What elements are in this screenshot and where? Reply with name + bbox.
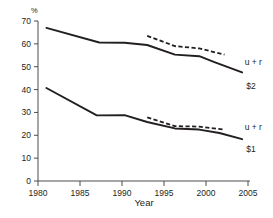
y-tick-label: 50 (22, 62, 32, 72)
series-line-u_plus_r_upper (147, 36, 224, 55)
y-tick-label: 60 (22, 39, 32, 49)
series-annotation-layer: u + r$2u + r$1 (245, 57, 262, 154)
line-chart-plot: % 010203040506070 1980198519901995200020… (0, 0, 273, 218)
x-tick-label: 1985 (71, 188, 90, 198)
y-tick-label: 70 (22, 16, 32, 26)
x-tick-label: 1995 (155, 188, 174, 198)
x-tick-label: 2000 (197, 188, 216, 198)
y-axis-tick-labels: 010203040506070 (22, 16, 32, 186)
series-label-dollar1: $1 (246, 144, 256, 154)
y-tick-label: 40 (22, 85, 32, 95)
y-tick-label: 0 (26, 176, 31, 186)
x-tick-label: 1990 (113, 188, 132, 198)
x-tick-label: 1980 (29, 188, 48, 198)
y-axis-ticks (34, 21, 38, 181)
y-tick-label: 30 (22, 107, 32, 117)
series-label-dollar2: $2 (246, 81, 256, 91)
series-line-u_plus_r_lower (147, 117, 224, 129)
x-axis-title: Year (134, 197, 153, 208)
data-series-layer (46, 28, 242, 139)
chart-container: % 010203040506070 1980198519901995200020… (0, 0, 273, 218)
x-axis-ticks (38, 181, 248, 186)
series-line-dollar1 (46, 88, 242, 139)
y-axis-unit-label: % (31, 6, 38, 15)
series-label-u_plus_r_lower: u + r (245, 122, 262, 132)
series-line-dollar2 (46, 28, 242, 73)
series-label-u_plus_r_upper: u + r (245, 57, 262, 67)
y-tick-label: 10 (22, 153, 32, 163)
x-tick-label: 2005 (239, 188, 258, 198)
y-tick-label: 20 (22, 130, 32, 140)
